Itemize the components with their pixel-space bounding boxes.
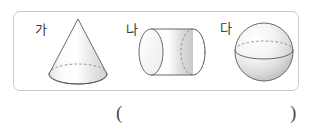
sphere-3d-icon [232,20,296,84]
solid-item-sphere: 다 [206,12,296,90]
cylinder-3d-icon [138,23,206,81]
solid-item-cone: 가 [22,12,114,90]
answer-blank[interactable]: ( ) [13,101,299,131]
solid-item-cylinder: 나 [111,12,206,90]
answer-paren-open: ( [116,101,122,125]
answer-paren-close: ) [290,101,296,125]
solid-label-ga: 가 [35,23,47,36]
cone-3d-icon [46,16,110,88]
solid-label-na: 나 [126,23,138,36]
figure-panel: 가 [13,11,299,91]
solid-label-da: 다 [220,22,232,35]
